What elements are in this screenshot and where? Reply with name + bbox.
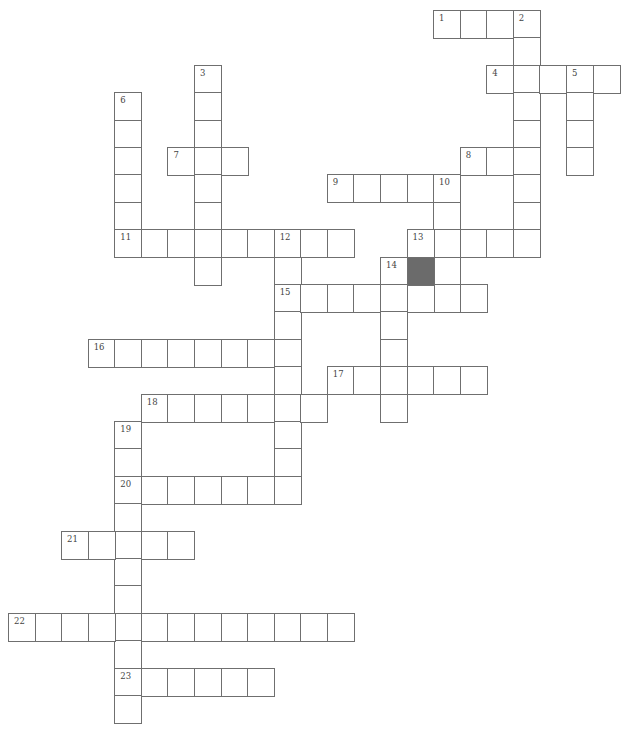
numbered-cell-5[interactable]: 5 bbox=[566, 65, 594, 94]
grid-cell[interactable] bbox=[274, 448, 302, 477]
grid-cell[interactable] bbox=[327, 613, 355, 642]
grid-cell[interactable] bbox=[513, 229, 541, 258]
grid-cell[interactable] bbox=[167, 339, 195, 368]
numbered-cell-23[interactable]: 23 bbox=[114, 668, 142, 697]
numbered-cell-1[interactable]: 1 bbox=[433, 10, 461, 39]
grid-cell[interactable] bbox=[274, 339, 302, 368]
grid-cell[interactable] bbox=[460, 366, 488, 395]
numbered-cell-2[interactable]: 2 bbox=[513, 10, 541, 39]
grid-cell[interactable] bbox=[486, 10, 514, 39]
grid-cell[interactable] bbox=[194, 147, 222, 176]
numbered-cell-9[interactable]: 9 bbox=[327, 174, 355, 203]
grid-cell[interactable] bbox=[247, 229, 275, 258]
grid-cell[interactable] bbox=[141, 229, 169, 258]
grid-cell[interactable] bbox=[194, 229, 222, 258]
grid-cell[interactable] bbox=[380, 174, 408, 203]
grid-cell[interactable] bbox=[486, 229, 514, 258]
grid-cell[interactable] bbox=[167, 613, 195, 642]
grid-cell[interactable] bbox=[114, 640, 142, 669]
grid-cell[interactable] bbox=[274, 476, 302, 505]
grid-cell[interactable] bbox=[88, 531, 116, 560]
grid-cell[interactable] bbox=[88, 613, 116, 642]
numbered-cell-17[interactable]: 17 bbox=[327, 366, 355, 395]
grid-cell[interactable] bbox=[513, 37, 541, 66]
grid-cell[interactable] bbox=[327, 229, 355, 258]
grid-cell[interactable] bbox=[247, 613, 275, 642]
grid-cell[interactable] bbox=[114, 531, 142, 560]
grid-cell[interactable] bbox=[433, 284, 461, 313]
numbered-cell-18[interactable]: 18 bbox=[141, 394, 169, 423]
grid-cell[interactable] bbox=[433, 202, 461, 231]
grid-cell[interactable] bbox=[194, 120, 222, 149]
grid-cell[interactable] bbox=[114, 558, 142, 587]
numbered-cell-19[interactable]: 19 bbox=[114, 421, 142, 450]
grid-cell[interactable] bbox=[380, 339, 408, 368]
grid-cell[interactable] bbox=[353, 366, 381, 395]
numbered-cell-22[interactable]: 22 bbox=[8, 613, 36, 642]
grid-cell[interactable] bbox=[167, 394, 195, 423]
grid-cell[interactable] bbox=[221, 229, 249, 258]
numbered-cell-4[interactable]: 4 bbox=[486, 65, 514, 94]
grid-cell[interactable] bbox=[114, 613, 142, 642]
grid-cell[interactable] bbox=[141, 613, 169, 642]
grid-cell[interactable] bbox=[486, 147, 514, 176]
grid-cell[interactable] bbox=[221, 476, 249, 505]
numbered-cell-11[interactable]: 11 bbox=[114, 229, 142, 258]
grid-cell[interactable] bbox=[327, 284, 355, 313]
numbered-cell-8[interactable]: 8 bbox=[460, 147, 488, 176]
grid-cell[interactable] bbox=[274, 394, 302, 423]
grid-cell[interactable] bbox=[247, 668, 275, 697]
grid-cell[interactable] bbox=[114, 120, 142, 149]
grid-cell[interactable] bbox=[380, 366, 408, 395]
grid-cell[interactable] bbox=[539, 65, 567, 94]
numbered-cell-12[interactable]: 12 bbox=[274, 229, 302, 258]
grid-cell[interactable] bbox=[513, 92, 541, 121]
grid-cell[interactable] bbox=[407, 366, 435, 395]
grid-cell[interactable] bbox=[194, 174, 222, 203]
grid-cell[interactable] bbox=[300, 613, 328, 642]
grid-cell[interactable] bbox=[114, 339, 142, 368]
grid-cell[interactable] bbox=[114, 147, 142, 176]
grid-cell[interactable] bbox=[433, 229, 461, 258]
numbered-cell-14[interactable]: 14 bbox=[380, 257, 408, 286]
grid-cell[interactable] bbox=[274, 613, 302, 642]
grid-cell[interactable] bbox=[141, 476, 169, 505]
grid-cell[interactable] bbox=[274, 257, 302, 286]
grid-cell[interactable] bbox=[167, 229, 195, 258]
numbered-cell-3[interactable]: 3 bbox=[194, 65, 222, 94]
grid-cell[interactable] bbox=[194, 394, 222, 423]
grid-cell[interactable] bbox=[247, 339, 275, 368]
numbered-cell-13[interactable]: 13 bbox=[407, 229, 435, 258]
grid-cell[interactable] bbox=[566, 147, 594, 176]
grid-cell[interactable] bbox=[221, 394, 249, 423]
grid-cell[interactable] bbox=[460, 229, 488, 258]
grid-cell[interactable] bbox=[167, 531, 195, 560]
grid-cell[interactable] bbox=[221, 147, 249, 176]
grid-cell[interactable] bbox=[167, 668, 195, 697]
numbered-cell-15[interactable]: 15 bbox=[274, 284, 302, 313]
grid-cell[interactable] bbox=[141, 339, 169, 368]
grid-cell[interactable] bbox=[194, 339, 222, 368]
grid-cell[interactable] bbox=[35, 613, 63, 642]
numbered-cell-21[interactable]: 21 bbox=[61, 531, 89, 560]
grid-cell[interactable] bbox=[247, 394, 275, 423]
grid-cell[interactable] bbox=[566, 92, 594, 121]
grid-cell[interactable] bbox=[513, 65, 541, 94]
grid-cell[interactable] bbox=[114, 174, 142, 203]
numbered-cell-10[interactable]: 10 bbox=[433, 174, 461, 203]
grid-cell[interactable] bbox=[274, 421, 302, 450]
grid-cell[interactable] bbox=[513, 147, 541, 176]
grid-cell[interactable] bbox=[194, 92, 222, 121]
grid-cell[interactable] bbox=[221, 339, 249, 368]
grid-cell[interactable] bbox=[460, 10, 488, 39]
grid-cell[interactable] bbox=[141, 668, 169, 697]
grid-cell[interactable] bbox=[380, 394, 408, 423]
grid-cell[interactable] bbox=[300, 394, 328, 423]
numbered-cell-7[interactable]: 7 bbox=[167, 147, 195, 176]
grid-cell[interactable] bbox=[593, 65, 621, 94]
grid-cell[interactable] bbox=[566, 120, 594, 149]
grid-cell[interactable] bbox=[407, 174, 435, 203]
grid-cell[interactable] bbox=[433, 257, 461, 286]
grid-cell[interactable] bbox=[247, 476, 275, 505]
grid-cell[interactable] bbox=[274, 311, 302, 340]
